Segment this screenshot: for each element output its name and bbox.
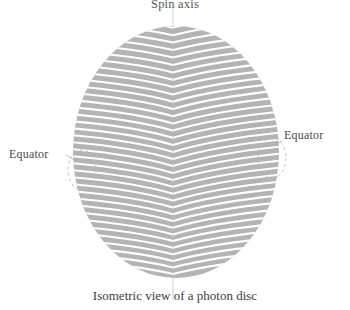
equator-label-left: Equator	[9, 147, 48, 162]
photon-disc-diagram	[0, 0, 350, 310]
spin-axis-label: Spin axis	[0, 0, 350, 12]
equator-leader-left	[66, 155, 74, 160]
equator-label-right: Equator	[284, 128, 323, 143]
figure-caption: Isometric view of a photon disc	[0, 288, 350, 304]
photon-disc-figure: Spin axis Equator Equator Isometric view…	[0, 0, 350, 310]
disc-stripe	[69, 13, 283, 27]
